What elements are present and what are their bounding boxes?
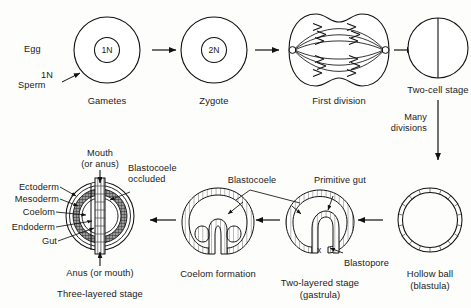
diagram-canvas: Egg 1N Sperm 1N Gametes 2N Zygote First …	[0, 0, 471, 308]
coelom-formation-cell	[182, 188, 254, 254]
first-division-cell	[289, 14, 389, 86]
coelom-formation-caption: Coelom formation	[180, 268, 256, 279]
egg-nucleus-label: 1N	[101, 45, 112, 56]
blastopore-mark: x	[317, 245, 321, 256]
mouth-label-line2: (or anus)	[81, 159, 119, 170]
mesoderm-label: Mesoderm	[15, 194, 59, 205]
blastocoele-occluded-line2: occluded	[128, 174, 166, 185]
coelom-label: Coelom	[23, 207, 55, 218]
gastrula-caption-line1: Two-layered stage	[281, 277, 359, 288]
blastula-cell	[398, 188, 462, 252]
zygote-caption: Zygote	[199, 95, 228, 106]
three-layered-stage-caption: Three-layered stage	[57, 288, 143, 299]
two-cell-stage-cell	[408, 18, 468, 78]
blastocoele-occluded-line1: Blastocoele	[128, 163, 177, 174]
egg-label: Egg	[24, 44, 41, 55]
two-cell-stage-caption: Two-cell stage	[407, 84, 468, 95]
zygote-nucleus-label: 2N	[208, 45, 219, 56]
many-divisions-line1: Many	[404, 112, 427, 123]
many-divisions-line2: divisions	[391, 123, 427, 134]
endoderm-label: Endoderm	[12, 222, 55, 233]
blastopore-label: Blastopore	[344, 258, 389, 269]
gastrula-cell	[286, 190, 354, 253]
gametes-caption: Gametes	[88, 95, 127, 106]
anus-label: Anus (or mouth)	[66, 268, 133, 279]
first-division-caption: First division	[312, 95, 366, 106]
blastula-caption-line2: (blastula)	[410, 280, 450, 291]
three-layered-stage-cell	[66, 170, 134, 266]
blastocoele-label: Blastocoele	[228, 175, 277, 186]
ectoderm-label: Ectoderm	[19, 182, 59, 193]
blastula-caption-line1: Hollow ball	[407, 268, 453, 279]
gastrula-caption-line2: (gastrula)	[300, 289, 341, 300]
gut-label: Gut	[42, 236, 57, 247]
diagram-artwork	[0, 0, 471, 308]
primitive-gut-label: Primitive gut	[314, 175, 366, 186]
sperm-label: Sperm	[18, 80, 46, 91]
mouth-label-line1: Mouth	[87, 148, 113, 159]
